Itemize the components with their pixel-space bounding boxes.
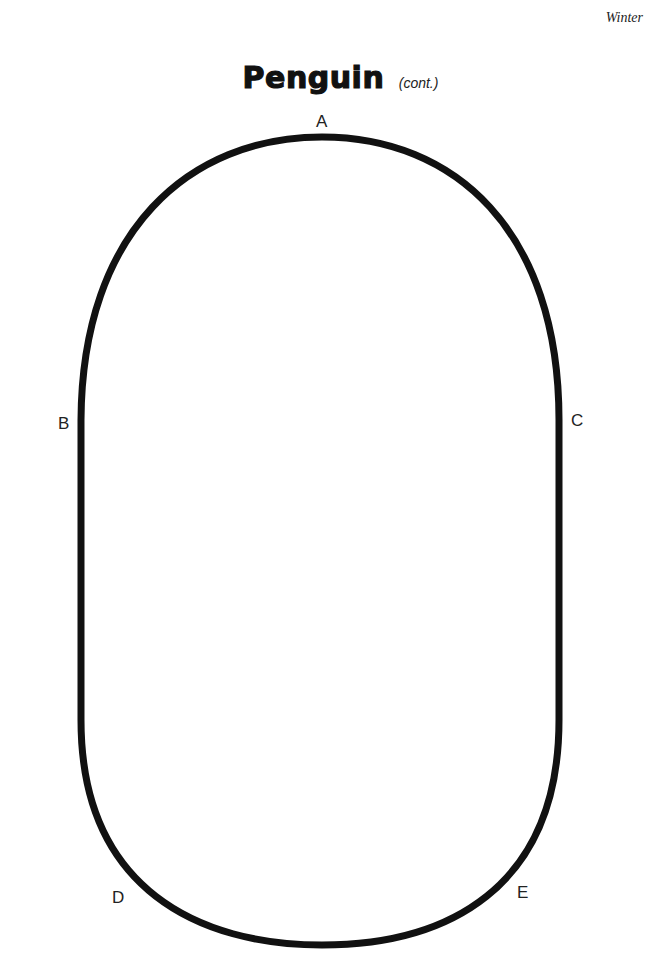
point-label-e: E: [517, 884, 528, 901]
point-label-b: B: [58, 415, 69, 432]
point-label-c: C: [571, 412, 583, 429]
point-label-d: D: [112, 889, 124, 906]
point-label-a: A: [316, 113, 327, 130]
oval-outline-shape: [0, 0, 663, 968]
